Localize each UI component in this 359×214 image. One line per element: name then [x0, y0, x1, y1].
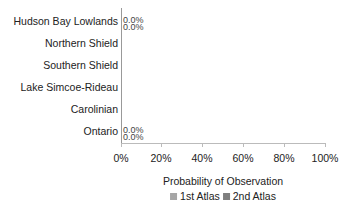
- x-tick-label-60: 60%: [232, 152, 253, 164]
- probability-bar-chart: Hudson Bay Lowlands Northern Shield Sout…: [0, 0, 359, 214]
- x-axis-line: [121, 143, 326, 144]
- x-tick-label-100: 100%: [312, 152, 339, 164]
- x-tick-0: [121, 143, 122, 147]
- x-tick-label-0: 0%: [113, 152, 128, 164]
- legend-swatch-2nd-atlas: [223, 193, 230, 200]
- x-axis-title: Probability of Observation: [163, 175, 283, 187]
- y-axis-line: [121, 8, 122, 144]
- x-tick-label-40: 40%: [191, 152, 212, 164]
- category-label-lake-simcoe-rideau: Lake Simcoe-Rideau: [21, 81, 118, 93]
- legend: 1st Atlas 2nd Atlas: [170, 190, 276, 202]
- x-tick-80: [284, 143, 285, 147]
- x-tick-60: [243, 143, 244, 147]
- legend-item-2nd-atlas: 2nd Atlas: [223, 190, 276, 202]
- category-label-southern-shield: Southern Shield: [43, 59, 118, 71]
- x-tick-20: [161, 143, 162, 147]
- data-label-ontario-2nd: 0.0%: [123, 133, 144, 141]
- legend-label-1st-atlas: 1st Atlas: [180, 190, 220, 202]
- x-tick-label-80: 80%: [273, 152, 294, 164]
- x-tick-40: [202, 143, 203, 147]
- category-label-ontario: Ontario: [84, 125, 118, 137]
- category-label-carolinian: Carolinian: [71, 103, 118, 115]
- legend-swatch-1st-atlas: [170, 193, 177, 200]
- x-tick-100: [325, 143, 326, 147]
- legend-item-1st-atlas: 1st Atlas: [170, 190, 220, 202]
- x-tick-label-20: 20%: [150, 152, 171, 164]
- category-label-northern-shield: Northern Shield: [45, 37, 118, 49]
- data-label-hbl-2nd: 0.0%: [123, 23, 144, 31]
- legend-label-2nd-atlas: 2nd Atlas: [233, 190, 276, 202]
- category-label-hudson-bay-lowlands: Hudson Bay Lowlands: [14, 15, 118, 27]
